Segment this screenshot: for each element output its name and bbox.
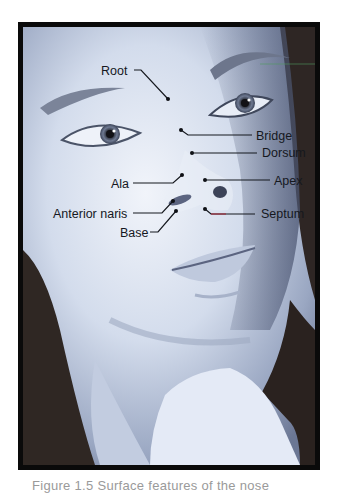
marker-base <box>174 209 178 213</box>
marker-anterior-naris <box>171 199 175 203</box>
label-apex: Apex <box>274 174 303 188</box>
marker-root <box>166 97 170 101</box>
figure-caption: Figure 1.5 Surface features of the nose <box>32 478 312 497</box>
label-anterior-naris: Anterior naris <box>53 207 127 221</box>
label-dorsum: Dorsum <box>262 146 306 160</box>
nostril-right <box>213 186 227 198</box>
label-root: Root <box>101 64 128 78</box>
label-bridge: Bridge <box>256 129 292 143</box>
label-septum: Septum <box>261 207 304 221</box>
label-ala: Ala <box>111 177 129 191</box>
portrait-photo <box>23 27 315 465</box>
marker-ala <box>180 173 184 177</box>
label-base: Base <box>120 226 149 240</box>
